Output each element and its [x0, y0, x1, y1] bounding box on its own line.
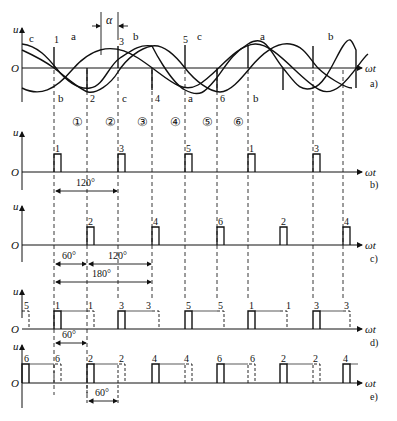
- svg-text:2: 2: [88, 216, 93, 227]
- svg-text:b: b: [58, 92, 64, 104]
- svg-text:2: 2: [281, 353, 286, 364]
- svg-text:3: 3: [119, 36, 124, 47]
- svg-text:1: 1: [54, 34, 59, 45]
- svg-text:4: 4: [344, 216, 349, 227]
- svg-text:④: ④: [170, 115, 181, 129]
- svg-text:e): e): [370, 391, 378, 403]
- panel-d-double-pulses: u O ωt d) 5 1 1 3 3 5 5 1 1 3: [11, 285, 378, 349]
- panel-a-waveforms: α u O ωt a) c a b c a b 1 3 5 b 2 c 4 a …: [11, 12, 378, 129]
- svg-text:2: 2: [281, 216, 286, 227]
- svg-text:b: b: [133, 30, 139, 42]
- thyristor-firing-pulse-diagram: α u O ωt a) c a b c a b 1 3 5 b 2 c 4 a …: [0, 0, 397, 421]
- svg-text:4: 4: [184, 353, 189, 364]
- svg-text:4: 4: [155, 93, 160, 104]
- svg-text:2: 2: [88, 353, 93, 364]
- svg-text:4: 4: [153, 216, 158, 227]
- svg-text:a: a: [71, 30, 76, 42]
- svg-text:b): b): [370, 179, 378, 191]
- svg-text:ωt: ωt: [365, 323, 377, 335]
- svg-text:①: ①: [72, 115, 83, 129]
- svg-text:ωt: ωt: [365, 62, 377, 74]
- svg-text:c: c: [122, 92, 127, 104]
- alpha-label: α: [106, 13, 113, 27]
- svg-text:4: 4: [152, 353, 157, 364]
- svg-text:u: u: [13, 340, 19, 352]
- svg-text:2: 2: [90, 93, 95, 104]
- svg-text:3: 3: [344, 300, 349, 311]
- svg-text:c: c: [197, 30, 202, 42]
- svg-text:6: 6: [218, 216, 223, 227]
- svg-text:1: 1: [249, 143, 254, 154]
- svg-text:5: 5: [218, 300, 223, 311]
- svg-text:1: 1: [88, 300, 93, 311]
- svg-text:c: c: [29, 32, 34, 44]
- svg-text:6: 6: [250, 353, 255, 364]
- svg-text:1: 1: [55, 300, 60, 311]
- svg-text:3: 3: [314, 143, 319, 154]
- svg-text:u: u: [13, 285, 19, 297]
- svg-text:5: 5: [183, 34, 188, 45]
- svg-text:③: ③: [137, 115, 148, 129]
- svg-text:ωt: ωt: [365, 239, 377, 251]
- svg-text:6: 6: [24, 353, 29, 364]
- svg-text:3: 3: [314, 300, 319, 311]
- svg-text:6: 6: [220, 93, 225, 104]
- panel-c-pulses: u O ωt c) 2 4 6 2 4 60° 120° 180°: [11, 200, 378, 282]
- svg-text:1: 1: [249, 300, 254, 311]
- svg-text:d): d): [370, 337, 378, 349]
- svg-text:a): a): [370, 78, 378, 90]
- svg-text:5: 5: [24, 300, 29, 311]
- svg-text:5: 5: [186, 143, 191, 154]
- svg-text:5: 5: [186, 300, 191, 311]
- svg-text:ωt: ωt: [365, 377, 377, 389]
- svg-text:O: O: [11, 62, 19, 74]
- svg-text:⑥: ⑥: [233, 115, 244, 129]
- svg-text:u: u: [13, 126, 19, 138]
- svg-text:1: 1: [286, 300, 291, 311]
- svg-text:60°: 60°: [95, 387, 109, 398]
- svg-text:O: O: [11, 377, 19, 389]
- svg-text:b: b: [328, 30, 334, 42]
- svg-text:⑤: ⑤: [202, 115, 213, 129]
- svg-text:a: a: [260, 30, 265, 42]
- svg-text:6: 6: [217, 353, 222, 364]
- svg-text:2: 2: [313, 353, 318, 364]
- svg-text:3: 3: [146, 300, 151, 311]
- svg-text:60°: 60°: [62, 329, 76, 340]
- svg-text:O: O: [11, 166, 19, 178]
- svg-text:a: a: [188, 92, 193, 104]
- svg-text:2: 2: [119, 353, 124, 364]
- svg-text:3: 3: [119, 300, 124, 311]
- panel-e-double-pulses: u O ωt e) 6 6 2 2 4 4 6 6 2 2: [11, 340, 378, 408]
- svg-text:60°: 60°: [62, 250, 76, 261]
- svg-text:1: 1: [55, 143, 60, 154]
- panel-b-pulses: u O ωt b) 1 3 5 1 3 120°: [11, 126, 378, 191]
- svg-text:c): c): [370, 253, 378, 265]
- svg-text:②: ②: [105, 115, 116, 129]
- svg-text:u: u: [13, 23, 19, 35]
- svg-text:4: 4: [343, 353, 348, 364]
- svg-text:u: u: [13, 200, 19, 212]
- svg-text:3: 3: [119, 143, 124, 154]
- svg-text:b: b: [253, 92, 259, 104]
- svg-text:180°: 180°: [92, 268, 111, 279]
- svg-text:ωt: ωt: [365, 166, 377, 178]
- svg-text:6: 6: [55, 353, 60, 364]
- guide-lines: [54, 70, 343, 395]
- svg-text:120°: 120°: [108, 250, 127, 261]
- svg-text:O: O: [11, 323, 19, 335]
- svg-text:O: O: [11, 239, 19, 251]
- svg-text:120°: 120°: [76, 177, 95, 188]
